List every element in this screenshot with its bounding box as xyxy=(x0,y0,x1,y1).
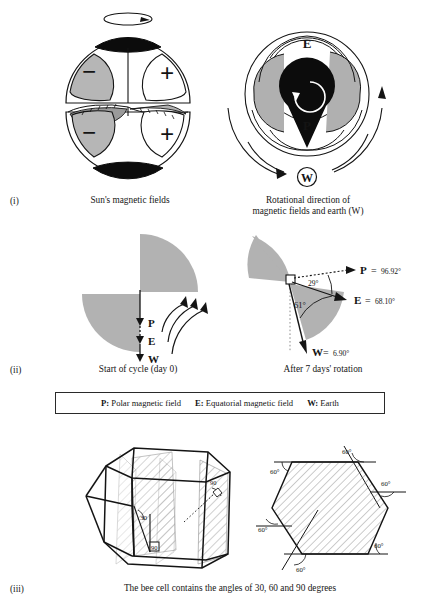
panel-iii-bee-cell-3d: 30 90 90 xyxy=(76,444,246,579)
panel-ii-start-of-cycle: P E W xyxy=(68,232,218,362)
sector-upper-left xyxy=(248,235,290,282)
legend-key-E: E: xyxy=(195,398,204,408)
arc-arrowhead-2 xyxy=(190,298,198,310)
legend-text-W: Earth xyxy=(318,398,339,408)
label-earth-W: W xyxy=(301,171,313,185)
arc-arrowhead-3 xyxy=(200,302,208,314)
vector-value-E: E = 68.10° xyxy=(354,294,395,306)
caption-sun-magnetic-fields: Sun's magnetic fields xyxy=(50,195,210,206)
vector-value-W: W = 6.90° xyxy=(312,346,349,358)
bee-cell-3d-svg: 30 90 90 xyxy=(76,444,246,579)
svg-text:E: E xyxy=(354,294,361,306)
legend-text-P: Polar magnetic field xyxy=(109,398,181,408)
angle-label-90-bottom: 90 xyxy=(151,544,158,551)
hexagon-angle-label-3: 60° xyxy=(381,480,391,487)
vector-P-line xyxy=(294,270,348,278)
svg-text:6.90°: 6.90° xyxy=(333,349,349,358)
rotation-direction-arcs xyxy=(162,304,204,354)
label-polar-field-P: P xyxy=(303,118,311,133)
hexagon-svg: 60° 60° 60° 60° 60° 60° xyxy=(248,436,413,581)
vector-label-P: P xyxy=(148,317,155,329)
sun-upper-hemisphere: − + xyxy=(66,37,190,103)
arrowhead-vector-W xyxy=(299,340,307,354)
angle-label-30: 30 xyxy=(140,514,148,522)
panel-index-i: (i) xyxy=(10,196,19,206)
polarity-label-positive-lower: + xyxy=(160,121,174,148)
legend-item-earth: W: Earth xyxy=(307,398,339,408)
panel-index-iii: (iii) xyxy=(10,584,24,594)
quadrant-upper-right xyxy=(140,234,198,292)
vector-value-P: P = 96.92° xyxy=(360,264,401,276)
hexagon-angle-label-1: 60° xyxy=(270,468,280,475)
label-equatorial-field-E: E xyxy=(303,36,312,51)
svg-text:=: = xyxy=(323,347,329,358)
hexagon-shape xyxy=(272,462,388,554)
arrowhead-right xyxy=(378,86,386,99)
angle-label-90-right: 90 xyxy=(210,479,217,486)
arc-arrowhead-1 xyxy=(180,296,188,308)
hexagon-angle-label-2: 60° xyxy=(342,448,352,455)
caption-rotational-direction: Rotational direction of magnetic fields … xyxy=(222,195,394,217)
legend-key-W: W: xyxy=(307,398,318,408)
svg-text:96.92°: 96.92° xyxy=(381,267,401,276)
arrowhead-left xyxy=(276,168,287,179)
start-of-cycle-svg: P E W xyxy=(68,232,218,362)
svg-text:=: = xyxy=(371,265,377,276)
hexagon-angle-label-5: 60° xyxy=(296,566,306,573)
angle-label-29: 29° xyxy=(308,279,319,288)
hexagon-angle-label-4: 60° xyxy=(374,542,384,549)
arrowhead-W xyxy=(136,354,144,362)
legend-box: P: Polar magnetic field E: Equatorial ma… xyxy=(55,392,385,414)
svg-text:W: W xyxy=(312,346,323,358)
caption-after-rotation: After 7 days' rotation xyxy=(238,364,408,375)
legend-item-equatorial: E: Equatorial magnetic field xyxy=(195,398,293,408)
rotation-arrow-icon xyxy=(104,13,152,25)
panel-ii-after-rotation: 29° 61° P = 96.92° E = 68.10° W = 6.90° xyxy=(244,230,422,365)
hexagon-angle-label-6: 60° xyxy=(258,526,268,533)
svg-text:68.10°: 68.10° xyxy=(375,297,395,306)
polarity-label-negative-lower: − xyxy=(82,119,96,146)
polarity-label-positive-upper: + xyxy=(160,60,174,87)
panel-i-rotational-direction: E P W xyxy=(222,22,392,190)
arrowhead-vector-P xyxy=(346,266,356,274)
panel-i-sun-magnetic-fields: − + − + xyxy=(48,8,208,188)
legend-key-P: P: xyxy=(101,398,109,408)
caption-start-of-cycle: Start of cycle (day 0) xyxy=(58,364,218,375)
sun-magnetic-fields-svg: − + − + xyxy=(48,8,208,188)
legend-item-polar: P: Polar magnetic field xyxy=(101,398,181,408)
panel-iii-hexagon: 60° 60° 60° 60° 60° 60° xyxy=(248,436,413,581)
svg-text:=: = xyxy=(365,295,371,306)
inner-face-3 xyxy=(132,452,176,556)
vector-label-E: E xyxy=(148,335,155,347)
angle-label-61: 61° xyxy=(294,300,306,310)
after-rotation-svg: 29° 61° P = 96.92° E = 68.10° W = 6.90° xyxy=(244,230,422,365)
earth-marker-W: W xyxy=(298,168,317,187)
sector-lower-right xyxy=(290,284,344,340)
rotational-direction-svg: E P W xyxy=(222,22,392,190)
polarity-label-negative-upper: − xyxy=(82,58,96,85)
svg-text:P: P xyxy=(360,264,367,276)
panel-index-ii: (ii) xyxy=(10,365,21,375)
legend-text-E: Equatorial magnetic field xyxy=(204,398,293,408)
quadrant-lower-left xyxy=(82,294,140,352)
sun-lower-hemisphere: − + xyxy=(66,104,190,179)
caption-bee-cell: The bee cell contains the angles of 30, … xyxy=(80,583,380,594)
